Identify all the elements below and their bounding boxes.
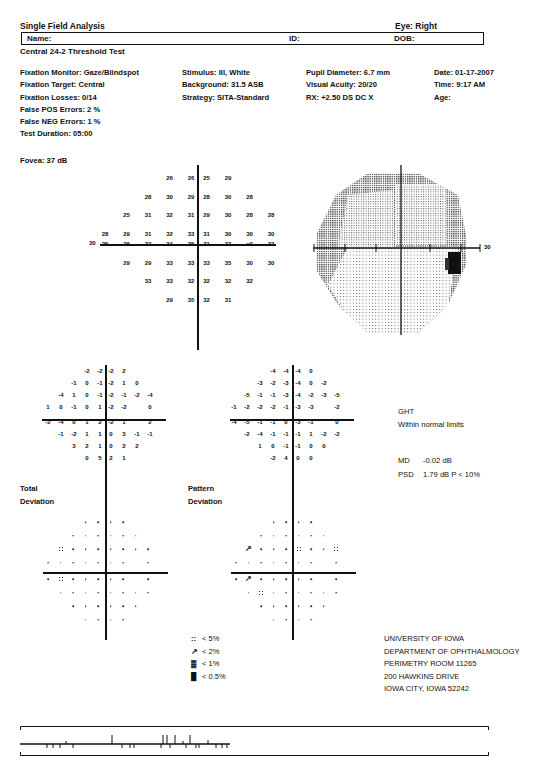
pattern-prob-cell — [333, 546, 339, 552]
threshold-cell: 25 — [203, 175, 210, 181]
grayscale-svg — [308, 165, 490, 335]
total-deviation-cell: 2 — [135, 443, 138, 449]
pattern-prob-cell — [273, 578, 275, 580]
total-deviation-cell: 1 — [85, 419, 88, 425]
pattern-deviation-cell: -3 — [257, 380, 262, 386]
pattern-prob-cell — [298, 605, 300, 607]
pattern-prob-cell — [335, 578, 337, 580]
pattern-deviation-cell: 0 — [309, 443, 312, 449]
pattern-prob-cell — [323, 548, 325, 550]
total-prob-cell — [110, 592, 112, 594]
pd-v-axis — [292, 365, 294, 640]
total-prob-cell — [110, 578, 112, 580]
threshold-cell: 34 — [166, 241, 173, 247]
grayscale-axis-label: 30 — [484, 244, 491, 250]
total-prob-cell — [147, 548, 149, 550]
pattern-deviation-cell: 0 — [296, 455, 299, 461]
threshold-cell: 28 — [268, 212, 275, 218]
pattern-prob-cell — [273, 548, 275, 550]
legend-5pct: :: < 5% — [191, 633, 226, 646]
total-deviation-cell: -4 — [147, 392, 152, 398]
pattern-prob-cell — [285, 578, 287, 580]
pattern-prob-cell — [285, 562, 287, 564]
pattern-prob-cell — [273, 605, 275, 607]
threshold-cell: 33 — [166, 278, 173, 284]
threshold-cell: 32 — [166, 231, 173, 237]
ght-block: GHT Within normal limits — [398, 405, 464, 431]
total-prob-cell — [97, 535, 99, 537]
threshold-cell: 26 — [188, 175, 195, 181]
address-line-5: IOWA CITY, IOWA 52242 — [384, 683, 519, 696]
threshold-cell: 31 — [145, 212, 152, 218]
threshold-cell: 28 — [246, 194, 253, 200]
pattern-deviation-cell: -1 — [257, 392, 262, 398]
total-deviation-cell: -2 — [121, 404, 126, 410]
pattern-deviation-cell: 0 — [309, 368, 312, 374]
total-deviation-cell: 5 — [98, 455, 101, 461]
pattern-deviation-cell: -5 — [334, 392, 339, 398]
total-deviation-cell: -1 — [97, 392, 102, 398]
total-deviation-cell: 1 — [122, 419, 125, 425]
pattern-prob-cell — [296, 546, 302, 552]
pattern-prob-cell — [273, 535, 275, 537]
threshold-cell: 32 — [203, 297, 210, 303]
total-deviation-cell: 0 — [135, 380, 138, 386]
total-prob-cell — [97, 592, 99, 594]
total-deviation-cell: 1 — [122, 455, 125, 461]
pattern-prob-cell — [260, 535, 262, 537]
total-prob-cell — [72, 605, 74, 607]
pattern-prob-cell — [335, 562, 337, 564]
total-deviation-cell: -2 — [84, 368, 89, 374]
legend-1pct: ▓ < 1% — [191, 658, 226, 671]
threshold-cell: 30 — [246, 231, 253, 237]
pattern-prob-cell — [273, 521, 275, 523]
total-prob-cell — [135, 535, 137, 537]
total-prob-cell — [60, 592, 62, 594]
pattern-deviation-cell: -4 — [283, 368, 288, 374]
pattern-deviation-cell: -3 — [295, 404, 300, 410]
pattern-deviation-cell: -2 — [244, 404, 249, 410]
total-prob-cell — [97, 578, 99, 580]
pattern-deviation-cell: -2 — [270, 455, 275, 461]
pattern-prob-cell — [285, 548, 287, 550]
pattern-prob-cell — [260, 548, 262, 550]
threshold-cell: 28 — [102, 231, 109, 237]
total-prob-cell — [85, 619, 87, 621]
threshold-cell: 32 — [188, 278, 195, 284]
pattern-deviation-cell: -4 — [257, 431, 262, 437]
pattern-prob-cell — [323, 592, 325, 594]
pattern-prob-cell — [273, 592, 275, 594]
total-deviation-cell: 2 — [85, 443, 88, 449]
threshold-cell: 29 — [188, 194, 195, 200]
total-prob-cell — [110, 562, 112, 564]
pattern-deviation-cell: -2 — [270, 380, 275, 386]
pattern-deviation-cell: -2 — [321, 380, 326, 386]
threshold-cell: 30 — [225, 212, 232, 218]
total-deviation-cell: 1 — [46, 404, 49, 410]
global-indices: MD-0.02 dB PSD1.79 dB P < 10% — [398, 454, 480, 481]
threshold-cell: 28 — [145, 194, 152, 200]
total-prob-cell — [85, 562, 87, 564]
total-deviation-cell: 2 — [148, 419, 151, 425]
total-deviation-cell: -1 — [134, 431, 139, 437]
total-prob-cell — [147, 578, 149, 580]
threshold-cell: 25 — [123, 212, 130, 218]
pattern-deviation-cell: -3 — [308, 404, 313, 410]
pattern-prob-cell — [298, 521, 300, 523]
total-prob-cell — [97, 619, 99, 621]
total-prob-cell — [122, 605, 124, 607]
total-deviation-cell: -2 — [71, 431, 76, 437]
pattern-deviation-cell: -2 — [308, 392, 313, 398]
legend-1pct-label: < 1% — [202, 658, 219, 671]
pattern-prob-cell — [310, 521, 312, 523]
total-prob-cell — [147, 562, 149, 564]
threshold-axis-label: 30 — [89, 240, 96, 246]
threshold-cell: 31 — [203, 241, 210, 247]
total-deviation-cell: -1 — [71, 380, 76, 386]
psd-value: 1.79 dB P < 10% — [423, 470, 480, 479]
total-deviation-cell: -2 — [108, 392, 113, 398]
pattern-prob-cell — [298, 592, 300, 594]
pattern-prob-cell — [235, 578, 237, 580]
total-deviation-cell: -1 — [121, 392, 126, 398]
threshold-cell: 26 — [166, 175, 173, 181]
